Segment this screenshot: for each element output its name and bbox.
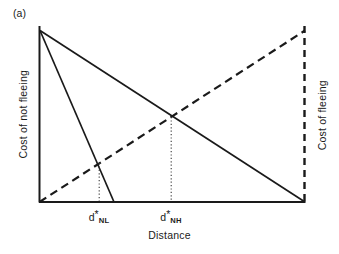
- cost-not-fleeing-steep-line: [40, 31, 114, 203]
- figure-container: (a) Cost of not fleeing Cost of fleeing …: [0, 0, 339, 254]
- tick-sub-nl: NL: [99, 216, 110, 225]
- panel-label: (a): [13, 8, 26, 19]
- x-tick-label-d-nl: d*NL: [72, 209, 126, 224]
- y-axis-label-right: Cost of fleeing: [317, 55, 328, 175]
- tick-sub-nh: NH: [170, 216, 181, 225]
- y-axis-label-left: Cost of not fleeing: [18, 54, 29, 174]
- x-axis-label: Distance: [0, 230, 339, 241]
- x-tick-label-d-nh: d*NH: [144, 209, 198, 224]
